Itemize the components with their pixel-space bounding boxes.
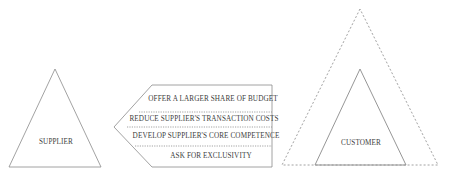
- arrow-item-exclusivity: ASK FOR EXCLUSIVITY: [170, 153, 251, 160]
- arrow-item-offer-budget: OFFER A LARGER SHARE OF BUDGET: [148, 96, 277, 103]
- arrow-item-develop-competence: DEVELOP SUPPLIER'S CORE COMPETENCE: [133, 133, 280, 140]
- supplier-label: SUPPLIER: [39, 139, 73, 146]
- supplier-customer-diagram: SUPPLIER OFFER A LARGER SHARE OF BUDGET …: [0, 0, 449, 175]
- arrow-item-reduce-costs: REDUCE SUPPLIER'S TRANSACTION COSTS: [129, 116, 278, 123]
- supplier-triangle: [9, 69, 101, 167]
- customer-label: CUSTOMER: [341, 140, 381, 147]
- customer-triangle: [315, 69, 406, 165]
